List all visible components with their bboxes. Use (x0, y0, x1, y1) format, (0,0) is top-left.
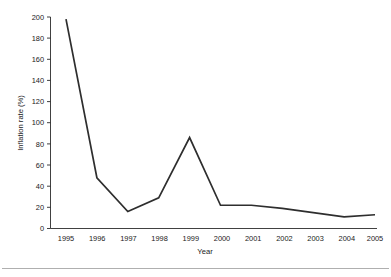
y-tick-label-120: 120 (32, 97, 44, 106)
y-tick-label-100: 100 (32, 118, 44, 127)
y-tick-label-20: 20 (36, 203, 44, 212)
x-tick-label-2002: 2002 (276, 234, 292, 243)
x-tick-label-1998: 1998 (151, 234, 167, 243)
inflation-rate-line-chart: 200 180 160 140 120 100 80 60 40 20 0 In… (0, 0, 391, 277)
y-tick-label-80: 80 (36, 140, 44, 149)
y-tick-label-200: 200 (32, 13, 44, 22)
y-tick-label-60: 60 (36, 161, 44, 170)
y-tick-label-40: 40 (36, 182, 44, 191)
x-tick-label-2001: 2001 (245, 234, 261, 243)
x-axis-title: Year (197, 247, 213, 256)
x-tick-label-2003: 2003 (307, 234, 323, 243)
y-tick-label-160: 160 (32, 55, 44, 64)
y-tick-label-140: 140 (32, 76, 44, 85)
x-tick-label-1996: 1996 (89, 234, 105, 243)
y-axis-title: Inflation rate (%) (16, 95, 25, 151)
x-tick-label-1997: 1997 (120, 234, 136, 243)
y-tick-label-180: 180 (32, 34, 44, 43)
x-tick-label-1999: 1999 (183, 234, 199, 243)
y-tick-label-0: 0 (40, 224, 44, 233)
x-tick-label-2005: 2005 (367, 234, 383, 243)
x-tick-label-1995: 1995 (58, 234, 74, 243)
chart-figure: 200 180 160 140 120 100 80 60 40 20 0 In… (0, 0, 391, 277)
x-tick-label-2004: 2004 (339, 234, 355, 243)
x-tick-label-2000: 2000 (214, 234, 230, 243)
